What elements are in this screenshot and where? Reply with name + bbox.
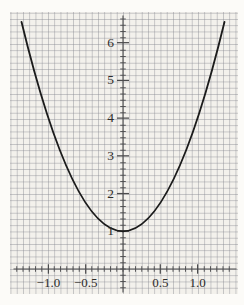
x-tick-label: −0.5 xyxy=(74,275,98,290)
y-tick-label: 4 xyxy=(92,110,114,126)
y-tick-label: 2 xyxy=(92,186,114,202)
y-tick-label: 6 xyxy=(92,35,114,51)
x-tick-label: 0.5 xyxy=(152,275,168,290)
x-tick-label: 1.0 xyxy=(189,275,205,290)
y-tick-label: 5 xyxy=(92,72,114,88)
y-tick-label: 3 xyxy=(92,148,114,164)
plot-canvas xyxy=(0,0,244,305)
x-tick-label: −1.0 xyxy=(37,275,61,290)
parabola-figure: 1 2 3 4 5 6 −1.0 −0.5 0.5 1.0 xyxy=(0,0,244,305)
y-tick-label: 1 xyxy=(92,223,114,239)
